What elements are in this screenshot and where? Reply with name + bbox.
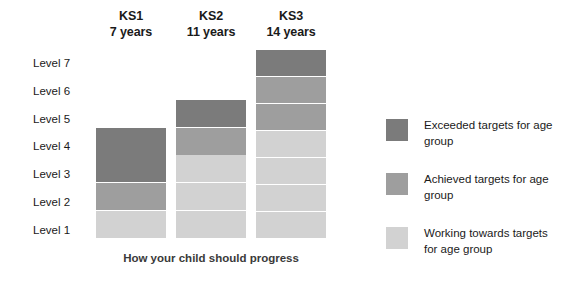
bar-cell-ks1-level-2 [96,183,166,210]
column-stage-label: KS3 [256,8,326,24]
column-stage-label: KS1 [96,8,166,24]
bar-cell-ks3-level-5 [256,104,326,130]
bar-cell-ks1-level-4 [96,128,166,155]
bar-cell-ks3-level-2 [256,185,326,211]
chart-caption: How your child should progress [96,252,326,264]
column-age-label: 11 years [176,24,246,40]
bar-cell-ks3-level-6 [256,77,326,103]
legend-swatch-exceeded [386,119,408,141]
column-header-ks1: KS17 years [96,8,166,44]
level-label-1: Level 1 [33,217,93,244]
bar-cell-ks2-level-2 [176,183,246,210]
progress-chart-grid [96,50,326,238]
bar-cell-ks3-level-3 [256,158,326,184]
column-header-ks3: KS314 years [256,8,326,44]
level-label-7: Level 7 [33,50,93,77]
legend-label: Achieved targets for age group [424,172,562,203]
bar-cell-ks3-level-4 [256,131,326,157]
column-headers: KS17 yearsKS211 yearsKS314 years [96,8,326,44]
bar-cell-ks3-level-1 [256,212,326,238]
bar-cell-ks2-level-1 [176,211,246,238]
level-axis-labels: Level 7Level 6Level 5Level 4Level 3Level… [33,50,93,238]
level-label-2: Level 2 [33,189,93,216]
level-label-6: Level 6 [33,78,93,105]
chart-legend: Exceeded targets for age groupAchieved t… [386,118,562,257]
column-age-label: 7 years [96,24,166,40]
bar-cell-ks1-level-3 [96,155,166,182]
bar-cell-ks1-level-1 [96,211,166,238]
bar-column-ks1 [96,50,166,238]
level-label-4: Level 4 [33,133,93,160]
column-header-ks2: KS211 years [176,8,246,44]
bar-cell-ks3-level-7 [256,50,326,76]
level-label-3: Level 3 [33,161,93,188]
level-label-5: Level 5 [33,106,93,133]
legend-label: Working towards targets for age group [424,226,562,257]
legend-swatch-working [386,227,408,249]
legend-swatch-achieved [386,173,408,195]
legend-item-working: Working towards targets for age group [386,226,562,257]
bar-column-ks2 [176,50,246,238]
legend-item-achieved: Achieved targets for age group [386,172,562,203]
legend-item-exceeded: Exceeded targets for age group [386,118,562,149]
legend-label: Exceeded targets for age group [424,118,562,149]
bar-column-ks3 [256,50,326,238]
column-age-label: 14 years [256,24,326,40]
bar-cell-ks2-level-5 [176,100,246,127]
bar-cell-ks2-level-3 [176,155,246,182]
bar-cell-ks2-level-4 [176,128,246,155]
column-stage-label: KS2 [176,8,246,24]
